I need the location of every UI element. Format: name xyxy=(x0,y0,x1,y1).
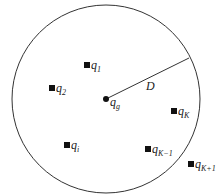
diagram-canvas: D qg q1 q2 qi qK qK−1 qK+1 xyxy=(0,0,223,195)
point-qK-minus-1: qK−1 xyxy=(145,142,173,158)
svg-text:qK−1: qK−1 xyxy=(152,142,173,158)
point-q1: q1 xyxy=(84,58,101,74)
center-label: qg xyxy=(110,95,120,111)
svg-text:qK: qK xyxy=(178,104,190,120)
svg-text:qi: qi xyxy=(71,138,79,154)
svg-text:q2: q2 xyxy=(56,81,66,97)
svg-text:qK+1: qK+1 xyxy=(195,157,216,173)
center-point xyxy=(103,96,109,102)
point-q2: q2 xyxy=(49,81,66,97)
point-qi: qi xyxy=(64,138,79,154)
point-qK: qK xyxy=(171,104,190,120)
svg-text:q1: q1 xyxy=(91,58,101,74)
radius-label: D xyxy=(145,79,155,93)
point-qK-plus-1: qK+1 xyxy=(188,157,216,173)
